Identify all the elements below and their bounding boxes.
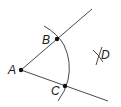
label-d: D [101, 48, 110, 62]
point-b [55, 37, 59, 41]
point-c [63, 84, 67, 88]
angle-bisector-construction: A B C D [0, 0, 121, 107]
label-b: B [42, 33, 50, 47]
diagram-canvas: A B C D [0, 0, 121, 107]
label-a: A [7, 63, 16, 77]
point-a [19, 68, 23, 72]
label-c: C [51, 84, 60, 98]
